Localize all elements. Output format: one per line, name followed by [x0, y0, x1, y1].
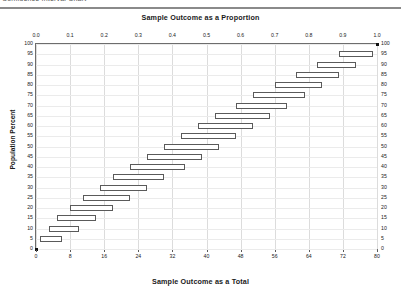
y-tick-right-11: 55 — [381, 134, 387, 139]
x-tick-top-2: 0.2 — [101, 33, 108, 38]
interval-bar — [83, 195, 130, 201]
x-tick-bottom-6: 48 — [238, 254, 244, 259]
gridline-vertical — [377, 44, 378, 249]
x-tick-top-5: 0.5 — [203, 33, 210, 38]
x-tick-top-7: 0.7 — [271, 33, 278, 38]
interval-bar — [57, 215, 95, 221]
y-tick-right-18: 90 — [381, 62, 387, 67]
interval-bar — [317, 62, 355, 68]
x-tick-top-4: 0.4 — [169, 33, 176, 38]
y-tick-left-18: 90 — [21, 62, 33, 67]
interval-bar — [147, 154, 202, 160]
y-axis-label: Population Percent — [9, 90, 16, 190]
y-tick-left-7: 35 — [21, 175, 33, 180]
gridline-horizontal — [36, 157, 377, 158]
y-tick-right-3: 15 — [381, 216, 387, 221]
x-tick-bottom-5: 40 — [204, 254, 210, 259]
interval-bar — [70, 205, 113, 211]
y-tick-left-3: 15 — [21, 216, 33, 221]
y-tick-right-2: 10 — [381, 226, 387, 231]
y-tick-right-14: 70 — [381, 103, 387, 108]
x-tick-top-10: 1.0 — [373, 33, 380, 38]
y-tick-left-17: 85 — [21, 72, 33, 77]
x-tick-top-8: 0.8 — [305, 33, 312, 38]
plot-area — [35, 43, 378, 250]
x-tickmark-bottom-9 — [343, 250, 344, 252]
y-tick-right-9: 45 — [381, 154, 387, 159]
interval-endpoint-marker — [376, 43, 379, 46]
interval-bar — [275, 82, 322, 88]
y-tick-left-13: 65 — [21, 113, 33, 118]
x-tickmark-bottom-6 — [241, 250, 242, 252]
x-tick-bottom-2: 16 — [101, 254, 107, 259]
y-tick-left-14: 70 — [21, 103, 33, 108]
y-tick-right-1: 5 — [381, 236, 384, 241]
x-tick-bottom-9: 72 — [340, 254, 346, 259]
y-tick-right-0: 0 — [381, 246, 384, 251]
x-tickmark-bottom-2 — [104, 250, 105, 252]
interval-bar — [296, 72, 339, 78]
x-tickmark-bottom-7 — [275, 250, 276, 252]
interval-bar — [164, 144, 219, 150]
y-tick-left-20: 100 — [21, 41, 33, 46]
x-tickmark-bottom-1 — [70, 250, 71, 252]
y-tick-left-16: 80 — [21, 82, 33, 87]
clipped-header-text: Confidence Interval Chart — [2, 0, 86, 2]
gridline-horizontal — [36, 229, 377, 230]
y-tick-right-7: 35 — [381, 175, 387, 180]
x-tickmark-bottom-5 — [207, 250, 208, 252]
y-tick-left-15: 75 — [21, 93, 33, 98]
y-tick-left-8: 40 — [21, 164, 33, 169]
y-tick-left-6: 30 — [21, 185, 33, 190]
gridline-horizontal — [36, 167, 377, 168]
y-tick-left-1: 5 — [21, 236, 33, 241]
gridline-horizontal — [36, 54, 377, 55]
x-tick-bottom-1: 8 — [69, 254, 72, 259]
gridline-horizontal — [36, 188, 377, 189]
x-tick-bottom-7: 56 — [272, 254, 278, 259]
y-tick-right-12: 60 — [381, 123, 387, 128]
interval-bar — [215, 113, 270, 119]
x-tickmark-bottom-8 — [309, 250, 310, 252]
gridline-horizontal — [36, 116, 377, 117]
y-tick-left-0: 0 — [21, 246, 33, 251]
x-tick-top-3: 0.3 — [135, 33, 142, 38]
gridline-horizontal — [36, 85, 377, 86]
y-tick-left-9: 45 — [21, 154, 33, 159]
x-tick-top-0: 0.0 — [32, 33, 39, 38]
x-tick-bottom-10: 80 — [374, 254, 380, 259]
y-tick-left-10: 50 — [21, 144, 33, 149]
interval-bar — [339, 51, 373, 57]
x-tick-top-1: 0.1 — [66, 33, 73, 38]
y-tick-right-4: 20 — [381, 205, 387, 210]
y-tick-right-6: 30 — [381, 185, 387, 190]
interval-bar — [40, 236, 61, 242]
y-tick-right-8: 40 — [381, 164, 387, 169]
x-tickmark-bottom-10 — [377, 250, 378, 252]
interval-bar — [236, 103, 287, 109]
interval-bar — [253, 92, 304, 98]
y-tick-left-19: 95 — [21, 52, 33, 57]
x-tick-top-6: 0.6 — [237, 33, 244, 38]
interval-bar — [113, 174, 164, 180]
y-tick-right-15: 75 — [381, 93, 387, 98]
x-tick-bottom-3: 24 — [135, 254, 141, 259]
chart-title-top: Sample Outcome as a Proportion — [0, 13, 401, 22]
y-tick-left-12: 60 — [21, 123, 33, 128]
gridline-horizontal — [36, 44, 377, 45]
y-tick-right-5: 25 — [381, 195, 387, 200]
y-tick-right-17: 85 — [381, 72, 387, 77]
x-tick-bottom-8: 64 — [306, 254, 312, 259]
y-tick-left-4: 20 — [21, 205, 33, 210]
interval-bar — [198, 123, 253, 129]
interval-bar — [100, 185, 147, 191]
y-tick-left-11: 55 — [21, 134, 33, 139]
gridline-horizontal — [36, 95, 377, 96]
y-tick-right-19: 95 — [381, 52, 387, 57]
interval-bar — [49, 226, 79, 232]
gridline-horizontal — [36, 177, 377, 178]
gridline-horizontal — [36, 106, 377, 107]
x-tickmark-bottom-0 — [36, 250, 37, 252]
x-tickmark-bottom-4 — [172, 250, 173, 252]
header-divider — [0, 7, 401, 9]
